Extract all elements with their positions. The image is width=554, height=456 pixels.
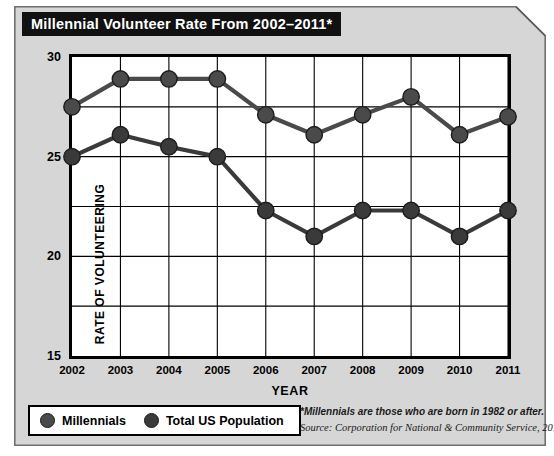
y-tick-label: 20: [33, 249, 61, 263]
legend-marker-icon: [144, 413, 159, 428]
legend-label: Total US Population: [166, 414, 284, 428]
x-tick-label: 2009: [398, 364, 424, 376]
footnote-millennials-definition: *Millennials are those who are born in 1…: [300, 404, 540, 420]
legend-label: Millennials: [62, 414, 126, 428]
x-tick-label: 2006: [253, 364, 279, 376]
legend-item: Millennials: [40, 413, 126, 428]
x-tick-label: 2010: [447, 364, 473, 376]
x-tick-label: 2004: [156, 364, 182, 376]
y-axis-title: RATE OF VOLUNTEERING: [93, 174, 107, 354]
x-axis-title: YEAR: [69, 384, 511, 398]
x-tick-label: 2003: [108, 364, 134, 376]
chart-legend: MillennialsTotal US Population: [28, 405, 301, 436]
y-axis-ticks: 15202530: [31, 54, 61, 359]
x-tick-label: 2007: [301, 364, 327, 376]
x-tick-label: 2002: [59, 364, 85, 376]
chart-footnotes: *Millennials are those who are born in 1…: [300, 404, 540, 436]
page-title: Millennial Volunteer Rate From 2002–2011…: [31, 16, 332, 32]
x-tick-label: 2008: [350, 364, 376, 376]
chart-screenshot: Millennial Volunteer Rate From 2002–2011…: [0, 0, 554, 456]
x-tick-label: 2005: [205, 364, 231, 376]
chart-title-bar: Millennial Volunteer Rate From 2002–2011…: [22, 12, 341, 36]
chart-series-layer: [72, 57, 508, 356]
y-tick-label: 15: [33, 349, 61, 363]
y-tick-label: 30: [33, 50, 61, 64]
x-axis-ticks: 2002200320042005200620072008200920102011: [69, 364, 511, 382]
footnote-source: Source: Corporation for National & Commu…: [300, 420, 540, 436]
x-tick-label: 2011: [496, 364, 521, 376]
plot-area: RATE OF VOLUNTEERING: [69, 54, 511, 359]
legend-item: Total US Population: [144, 413, 284, 428]
y-tick-label: 25: [33, 150, 61, 164]
legend-marker-icon: [40, 413, 55, 428]
